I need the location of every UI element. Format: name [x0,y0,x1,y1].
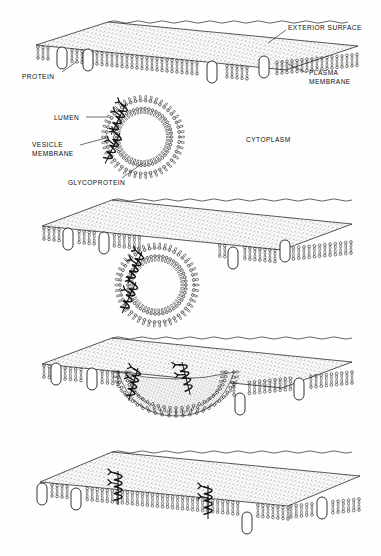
panel-1-docking-approach [36,21,358,179]
membrane-exterior-edge [108,21,348,23]
membrane-protein [63,228,73,250]
membrane-protein [207,61,217,83]
panel-4-integrated [37,451,360,534]
membrane-protein [37,483,47,505]
membrane-protein [71,488,81,510]
secretory-vesicle [113,243,199,328]
membrane-protein [83,49,93,71]
membrane-protein [57,47,67,69]
membrane-protein [228,247,238,269]
secretory-vesicle [96,95,185,179]
label-plasma-membrane: PLASMA MEMBRANE [309,69,351,86]
membrane-exterior-edge [112,451,352,453]
vesicle-bilayer [115,243,200,328]
label-vesicle-membrane: VESICLE MEMBRANE [32,141,74,158]
label-lumen: LUMEN [54,114,79,123]
label-cytoplasm: CYTOPLASM [246,136,291,145]
panel-3-fusion [42,337,353,417]
leader-vesicle-membrane [80,138,106,145]
label-exterior-surface: EXTERIOR SURFACE [288,24,362,33]
label-glycoprotein: GLYCOPROTEIN [68,179,125,188]
membrane-protein [242,512,252,534]
membrane-protein [280,240,290,262]
membrane-exterior-edge [112,337,352,339]
membrane-protein [87,368,97,390]
membrane-protein [294,378,304,400]
exocytosis-figure: EXTERIOR SURFACEPROTEINPLASMA MEMBRANELU… [0,0,381,556]
membrane-protein [317,497,327,519]
membrane-protein [235,393,245,415]
membrane-exterior-edge [112,199,352,201]
membrane-protein [51,363,61,385]
label-protein: PROTEIN [22,73,54,82]
membrane-protein [99,232,109,254]
membrane-protein [259,56,269,78]
panel-2-contact [42,199,352,327]
